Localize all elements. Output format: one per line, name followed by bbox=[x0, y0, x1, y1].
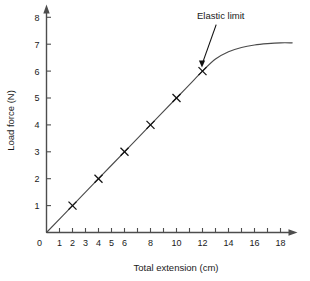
origin-label: 0 bbox=[37, 238, 42, 248]
x-tick-label: 4 bbox=[96, 238, 101, 248]
x-axis-title: Total extension (cm) bbox=[133, 262, 218, 273]
x-tick-label: 8 bbox=[148, 238, 153, 248]
x-tick-label: 12 bbox=[197, 238, 207, 248]
x-tick-label: 5 bbox=[109, 238, 114, 248]
y-tick-label: 2 bbox=[34, 174, 39, 184]
y-tick-label: 5 bbox=[34, 93, 39, 103]
x-tick-label: 18 bbox=[275, 238, 285, 248]
y-tick-label: 3 bbox=[34, 147, 39, 157]
x-tick-label: 6 bbox=[122, 238, 127, 248]
load-extension-chart: 12345681012141618123456780 Elastic limit… bbox=[0, 0, 310, 281]
x-tick-label: 3 bbox=[83, 238, 88, 248]
y-tick-label: 1 bbox=[34, 201, 39, 211]
x-tick-label: 16 bbox=[249, 238, 259, 248]
y-axis-title: Load force (N) bbox=[5, 90, 16, 151]
y-tick-label: 6 bbox=[34, 67, 39, 77]
y-tick-label: 8 bbox=[34, 13, 39, 23]
x-tick-label: 1 bbox=[57, 238, 62, 248]
x-tick-label: 2 bbox=[70, 238, 75, 248]
elastic-limit-label: Elastic limit bbox=[197, 10, 245, 21]
chart-page: 12345681012141618123456780 Elastic limit… bbox=[0, 0, 310, 281]
x-tick-label: 14 bbox=[223, 238, 233, 248]
y-tick-label: 4 bbox=[34, 120, 39, 130]
y-tick-label: 7 bbox=[34, 40, 39, 50]
x-tick-label: 10 bbox=[171, 238, 181, 248]
